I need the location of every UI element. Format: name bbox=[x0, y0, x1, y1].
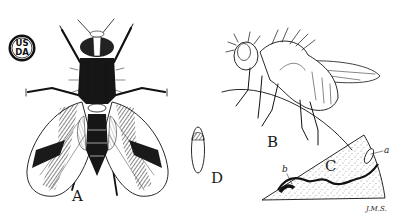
figure-d-pupa: D bbox=[192, 127, 224, 187]
figure-label-d: D bbox=[211, 169, 223, 187]
figure-b-fly-side: B bbox=[222, 28, 380, 151]
figure-label-a: A bbox=[71, 187, 83, 205]
insect-plate: US DA A bbox=[0, 0, 406, 217]
figure-c-sublabel-b: b bbox=[282, 164, 288, 174]
figure-label-b: B bbox=[267, 133, 278, 151]
seal-line-2: DA bbox=[15, 47, 29, 57]
figure-a-fly-dorsal: A bbox=[26, 19, 168, 205]
usda-seal-icon: US DA bbox=[9, 35, 36, 62]
artist-signature: J.M.S. bbox=[364, 205, 387, 213]
figure-c-sublabel-a: a bbox=[384, 145, 389, 155]
figure-c-leaf-mine: C a b bbox=[262, 135, 389, 200]
figure-label-c: C bbox=[325, 157, 336, 175]
